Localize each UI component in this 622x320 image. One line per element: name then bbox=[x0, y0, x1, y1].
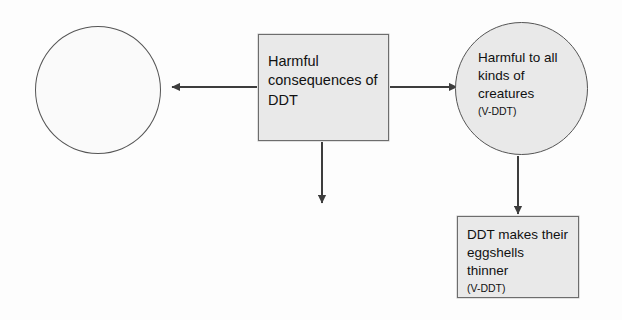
node-center-box-label: Harmful consequences of DDT bbox=[259, 52, 388, 110]
node-bottom-box-label: DDT makes their eggshells thinner bbox=[467, 227, 568, 278]
diagram-canvas: Harmful consequences of DDT Harmful to a… bbox=[0, 0, 622, 320]
node-left-circle[interactable] bbox=[35, 26, 161, 154]
node-right-circle-label: Harmful to all kinds of creatures bbox=[478, 50, 558, 101]
node-bottom-box-text: DDT makes their eggshells thinner (V-DDT… bbox=[458, 226, 578, 297]
node-bottom-box-sub-label: (V-DDT) bbox=[467, 281, 569, 297]
node-center-box[interactable]: Harmful consequences of DDT bbox=[258, 34, 389, 141]
node-right-circle-sub-label: (V-DDT) bbox=[478, 104, 565, 120]
node-right-circle-text: Harmful to all kinds of creatures (V-DDT… bbox=[456, 49, 587, 120]
node-right-circle[interactable]: Harmful to all kinds of creatures (V-DDT… bbox=[455, 22, 588, 155]
node-bottom-box[interactable]: DDT makes their eggshells thinner (V-DDT… bbox=[457, 216, 579, 298]
